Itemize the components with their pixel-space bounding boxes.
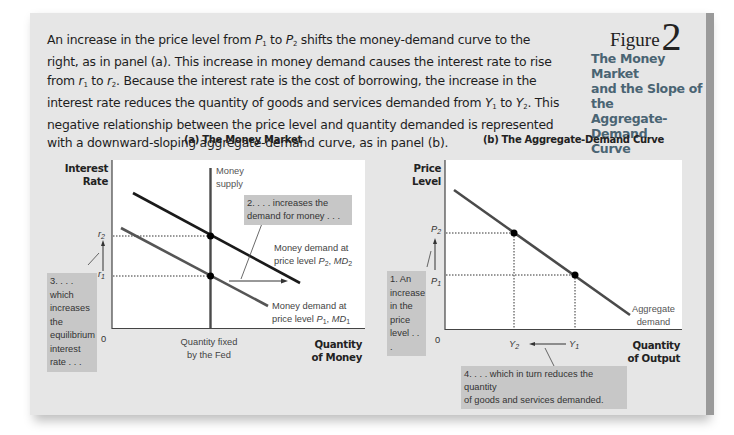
callout4-pointer [545,348,554,366]
panel-a-origin: 0 [101,333,106,346]
panel-b-origin: 0 [435,334,440,347]
y-axis-label-line: Interest [58,162,108,175]
panel-a-x-axis-label: Quantity of Money [300,338,362,364]
md2-label: Money demand at price level P2, MD2 [274,242,352,270]
panel-b-y-axis-label: Price Level [392,162,441,188]
quantity-fixed-label: Quantity fixed by the Fed [178,336,240,361]
aggregate-demand-label: Aggregate demand [632,303,675,328]
y1-label: Y1 [569,338,579,354]
ad-point-p2 [511,230,518,237]
p-up-arrow-head [433,238,437,244]
callout-3: 3. . . . which increases the equilibrium… [47,273,97,372]
y-left-arrow-head [529,342,535,346]
r1-label: r1 [98,268,105,284]
y2-label: Y2 [509,338,519,354]
p2-label: P2 [431,223,441,239]
p1-label: P1 [431,275,441,291]
panel-a-y-axis-label: Interest Rate [58,162,108,188]
callout3-pointer [88,253,99,265]
money-supply-label: Money supply [216,165,244,190]
callout-4: 4. . . . which in turn reduces the quant… [461,366,627,409]
md1-label: Money demand at price level P1, MD1 [272,300,350,328]
callout-1: 1. An increase in the price level . . . [387,271,426,356]
equilibrium-r1-point [207,273,214,280]
callout1-pointer [427,251,431,267]
ad-point-p1 [572,272,579,279]
y-axis-label-line: Rate [58,175,108,188]
panel-b-x-axis-label: Quantity of Output [612,339,680,365]
r2-label: r2 [98,228,105,244]
callout-2: 2. . . . increases the demand for money … [244,195,352,225]
equilibrium-r2-point [207,233,214,240]
